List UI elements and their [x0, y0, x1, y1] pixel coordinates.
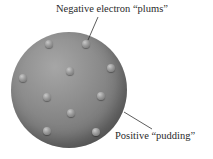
electron-leader-line	[88, 17, 98, 40]
positive-pudding-label: Positive “pudding”	[115, 130, 195, 141]
pudding-leader-line	[124, 112, 152, 129]
